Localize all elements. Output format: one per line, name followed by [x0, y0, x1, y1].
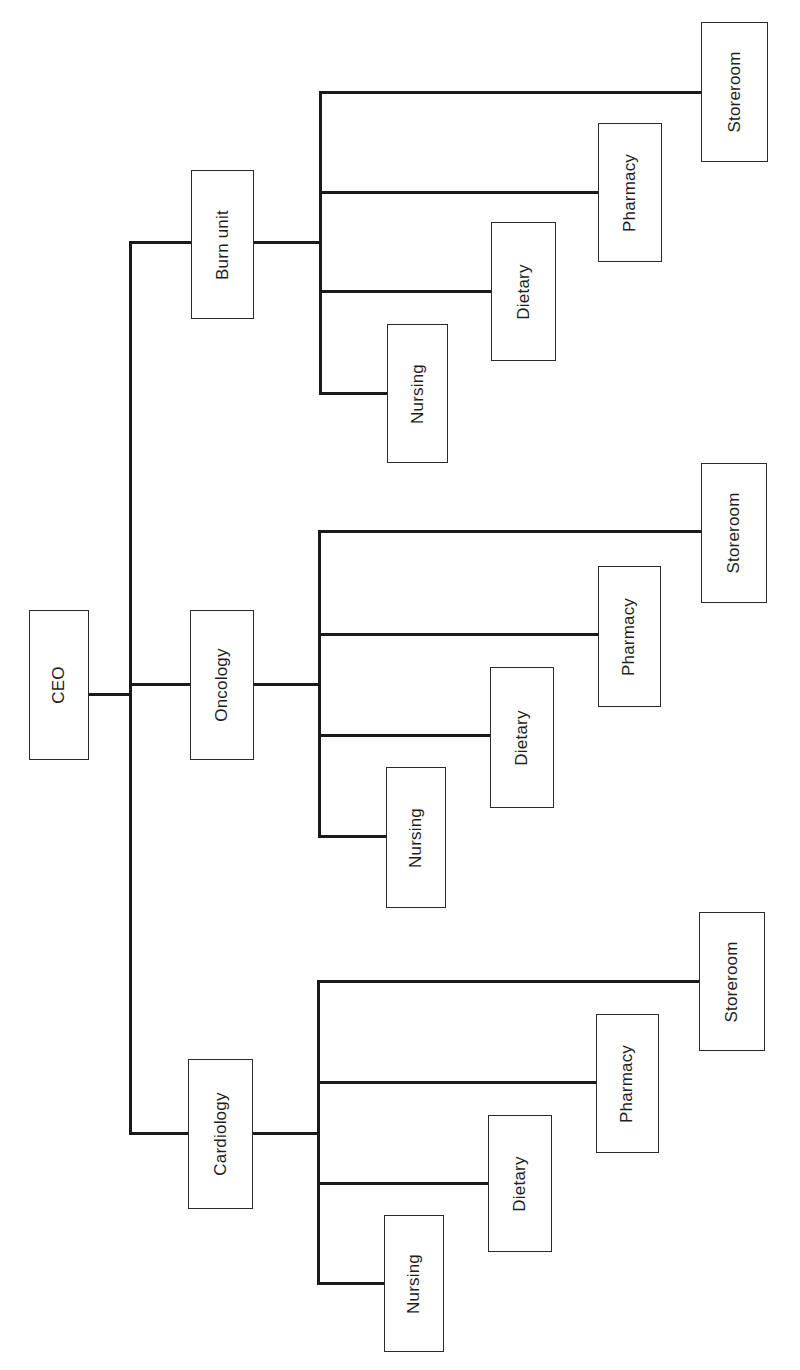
burn-unit-subtrunk-line: [319, 91, 322, 395]
org-chart: CEOBurn unitStoreroomPharmacyDietaryNurs…: [0, 0, 800, 1370]
department-box-burn-unit-label: Burn unit: [213, 210, 233, 280]
oncology-storeroom-box-label: Storeroom: [724, 492, 744, 573]
department-box-cardiology: Cardiology: [188, 1059, 253, 1209]
oncology-storeroom-box: Storeroom: [701, 463, 767, 603]
cardiology-storeroom-box-label: Storeroom: [722, 941, 742, 1022]
oncology-nursing-box: Nursing: [386, 767, 446, 908]
ceo-box-label: CEO: [49, 666, 69, 703]
cardiology-dietary-box-label: Dietary: [510, 1156, 530, 1211]
cardiology-subtrunk-connector-line: [253, 1132, 318, 1135]
burn-unit-pharmacy-connector-line: [320, 191, 598, 194]
ceo-connector-line: [89, 693, 130, 696]
oncology-nursing-box-label: Nursing: [406, 808, 426, 868]
cardiology-connector-line: [130, 1132, 188, 1135]
burn-unit-dietary-box: Dietary: [491, 222, 556, 361]
department-box-cardiology-label: Cardiology: [211, 1092, 231, 1175]
burn-unit-dietary-connector-line: [320, 290, 491, 293]
main-trunk-line: [129, 241, 132, 1135]
oncology-subtrunk-connector-line: [254, 683, 319, 686]
burn-unit-nursing-box-label: Nursing: [408, 364, 428, 424]
oncology-pharmacy-box: Pharmacy: [598, 566, 661, 707]
department-box-oncology-label: Oncology: [212, 648, 232, 721]
cardiology-storeroom-box: Storeroom: [699, 912, 765, 1051]
burn-unit-connector-line: [130, 241, 191, 244]
burn-unit-dietary-box-label: Dietary: [514, 264, 534, 319]
burn-unit-storeroom-box-label: Storeroom: [725, 51, 745, 132]
cardiology-pharmacy-connector-line: [318, 1081, 596, 1084]
oncology-nursing-connector-line: [319, 835, 386, 838]
cardiology-nursing-connector-line: [318, 1282, 384, 1285]
burn-unit-storeroom-box: Storeroom: [701, 22, 768, 162]
cardiology-dietary-box: Dietary: [488, 1115, 552, 1252]
oncology-pharmacy-connector-line: [319, 633, 598, 636]
burn-unit-storeroom-connector-line: [320, 91, 701, 94]
cardiology-storeroom-connector-line: [318, 980, 699, 983]
oncology-pharmacy-box-label: Pharmacy: [620, 597, 640, 675]
cardiology-dietary-connector-line: [318, 1182, 488, 1185]
cardiology-nursing-box: Nursing: [384, 1215, 444, 1352]
burn-unit-subtrunk-connector-line: [254, 241, 320, 244]
department-box-oncology: Oncology: [190, 610, 254, 760]
cardiology-pharmacy-box: Pharmacy: [596, 1014, 659, 1153]
burn-unit-pharmacy-box-label: Pharmacy: [620, 153, 640, 231]
oncology-connector-line: [130, 683, 190, 686]
oncology-dietary-connector-line: [319, 734, 490, 737]
department-box-burn-unit: Burn unit: [191, 170, 254, 319]
oncology-dietary-box-label: Dietary: [512, 710, 532, 765]
burn-unit-nursing-box: Nursing: [387, 324, 448, 463]
oncology-subtrunk-line: [318, 530, 321, 838]
burn-unit-pharmacy-box: Pharmacy: [598, 123, 662, 262]
burn-unit-nursing-connector-line: [320, 392, 387, 395]
oncology-storeroom-connector-line: [319, 530, 701, 533]
ceo-box: CEO: [29, 610, 89, 760]
cardiology-pharmacy-box-label: Pharmacy: [618, 1044, 638, 1122]
cardiology-nursing-box-label: Nursing: [404, 1254, 424, 1314]
cardiology-subtrunk-line: [317, 980, 320, 1285]
oncology-dietary-box: Dietary: [490, 667, 554, 808]
